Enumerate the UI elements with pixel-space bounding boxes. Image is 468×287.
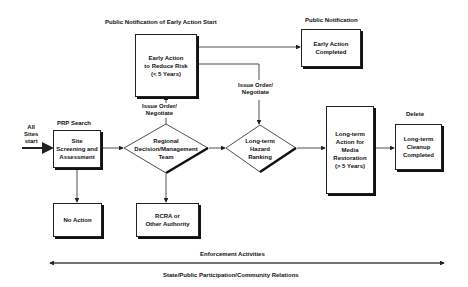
issue-order-right-label: Issue Order/ Negotiate (238, 82, 273, 96)
rcra-box: RCRA or Other Authority (136, 203, 199, 237)
public-notification-label: Public Notification (305, 17, 358, 24)
enforcement-activities-label: Enforcement Activities (200, 251, 265, 258)
all-sites-start-label: All Sites start (24, 124, 38, 145)
no-action-box: No Action (53, 203, 102, 237)
hazard-ranking-diamond: Long-term Hazard Ranking (228, 137, 292, 161)
prp-search-label: PRP Search (57, 120, 91, 127)
public-notification-start-label: Public Notification of Early Action Star… (105, 19, 217, 26)
issue-order-left-label: Issue Order/ Negotiate (142, 103, 177, 117)
early-action-completed-box: Early Action Completed (301, 29, 361, 67)
state-public-participation-label: State/Public Participation/Community Rel… (163, 272, 299, 279)
regional-decision-diamond: Regional Decision/Management Team (126, 137, 206, 161)
site-screening-box: Site Screening and Assessment (53, 130, 101, 168)
long-term-cleanup-box: Long-term Cleanup Completed (395, 124, 442, 170)
early-action-box: Early Action to Reduce Risk (< 5 Years) (135, 34, 197, 97)
delete-label: Delete (406, 111, 424, 118)
long-term-action-box: Long-term Action for Media Restoration (… (326, 106, 374, 194)
